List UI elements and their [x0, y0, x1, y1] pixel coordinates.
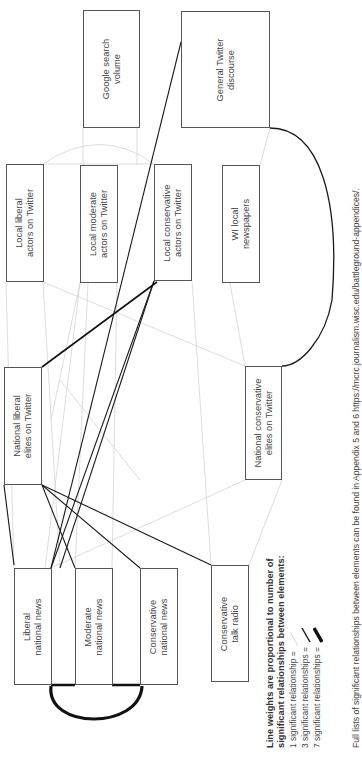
- footnote: Full lists of significant relationships …: [351, 188, 361, 748]
- node-liberal-national-news: Liberalnational news: [14, 568, 52, 685]
- medium-line-sample-icon: [301, 624, 311, 644]
- node-local-conservative-actors: Local conservativeactors on Twitter: [154, 164, 192, 281]
- node-local-moderate-actors: Local moderateactors on Twitter: [80, 165, 118, 283]
- legend-item-3: 3 significant relationships =: [300, 268, 311, 748]
- weak-line-sample-icon: [289, 628, 299, 648]
- node-national-liberal-elites: National liberalelites on Twitter: [4, 367, 42, 485]
- legend-title-line-2: significant relationships between elemen…: [276, 268, 287, 748]
- node-google-search-volume: Google searchvolume: [83, 10, 140, 128]
- legend-title-line-1: Line weights are proportional to number …: [265, 268, 276, 748]
- node-wi-local-newspapers: WI localnewspapers: [222, 165, 260, 283]
- node-general-twitter-discourse: General Twitterdiscourse: [181, 11, 270, 128]
- legend: Line weights are proportional to number …: [265, 268, 323, 748]
- legend-item-1: 1 significant relationship =: [288, 268, 299, 748]
- node-local-liberal-actors: Local liberalactors on Twitter: [6, 164, 44, 282]
- node-conservative-national-news: Conservativenational news: [140, 568, 178, 685]
- legend-item-7: 7 significant relationships =: [312, 268, 323, 748]
- node-conservative-talk-radio: Conservativetalk radio: [211, 565, 249, 682]
- strong-line-sample-icon: [313, 624, 323, 644]
- node-moderate-national-news: Moderatenational news: [75, 568, 113, 685]
